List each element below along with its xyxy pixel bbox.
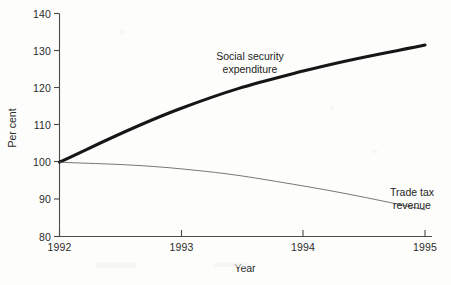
y-tick-label-120: 120: [33, 82, 51, 94]
annotation-trade-tax-line2: revenue: [393, 199, 431, 211]
y-axis-title: Per cent: [6, 108, 18, 147]
y-axis-ticks: [54, 14, 60, 237]
annotation-trade-tax-revenue: Trade tax revenue: [390, 186, 435, 211]
y-axis-tick-labels: 140 130 120 110 100 90 80: [33, 8, 51, 243]
series-line-trade-tax-revenue: [60, 162, 426, 210]
annotation-social-security-line1: Social security: [216, 50, 284, 62]
x-tick-label-1994: 1994: [291, 241, 315, 253]
y-tick-label-90: 90: [39, 193, 51, 205]
y-tick-label-110: 110: [34, 119, 51, 131]
annotation-social-security-expenditure: Social security expenditure: [216, 50, 284, 75]
annotation-social-security-line2: expenditure: [223, 63, 278, 75]
x-axis-title: Year: [234, 262, 256, 274]
x-axis-ticks: [60, 230, 426, 237]
x-tick-label-1993: 1993: [169, 241, 193, 253]
y-tick-label-130: 130: [33, 45, 51, 57]
x-tick-label-1995: 1995: [413, 241, 437, 253]
annotation-trade-tax-line1: Trade tax: [390, 186, 435, 198]
y-tick-label-140: 140: [33, 8, 51, 20]
x-tick-label-1992: 1992: [47, 241, 71, 253]
line-chart-canvas: 140 130 120 110 100 90 80 Per cent 1992 …: [0, 0, 451, 285]
chart-figure: 140 130 120 110 100 90 80 Per cent 1992 …: [0, 0, 451, 285]
x-axis-tick-labels: 1992 1993 1994 1995: [47, 241, 437, 253]
y-tick-label-100: 100: [33, 156, 51, 168]
